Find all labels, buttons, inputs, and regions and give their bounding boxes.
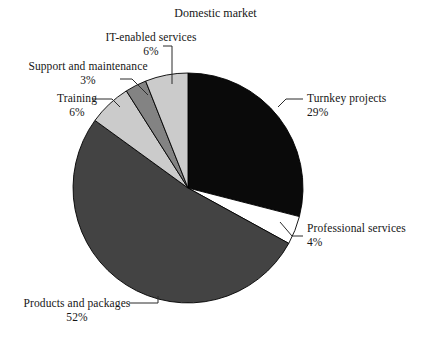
pie-chart-figure: Domestic market IT-enabled services 6% S…: [0, 0, 431, 340]
slice-label-name: Training: [34, 92, 120, 106]
slice-label-training: Training 6%: [34, 92, 120, 119]
slice-label-support-and-maintenance: Support and maintenance 3%: [10, 60, 166, 87]
slice-label-name: Turnkey projects: [307, 92, 427, 106]
leader-line-turnkey: [278, 99, 303, 107]
slice-label-name: IT-enabled services: [88, 31, 214, 45]
slice-label-name: Products and packages: [2, 297, 152, 311]
slice-label-percent: 29%: [307, 106, 427, 120]
slice-label-products-and-packages: Products and packages 52%: [2, 297, 152, 324]
pie-svg: [0, 0, 431, 340]
slice-label-percent: 6%: [88, 45, 214, 59]
slice-label-professional-services: Professional services 4%: [307, 222, 431, 249]
slice-label-it-enabled-services: IT-enabled services 6%: [88, 31, 214, 58]
slice-label-turnkey-projects: Turnkey projects 29%: [307, 92, 427, 119]
slice-label-name: Professional services: [307, 222, 431, 236]
slice-label-percent: 6%: [34, 106, 120, 120]
slice-label-name: Support and maintenance: [10, 60, 166, 74]
slice-label-percent: 52%: [2, 311, 152, 325]
slice-label-percent: 3%: [10, 74, 166, 88]
slice-label-percent: 4%: [307, 236, 431, 250]
